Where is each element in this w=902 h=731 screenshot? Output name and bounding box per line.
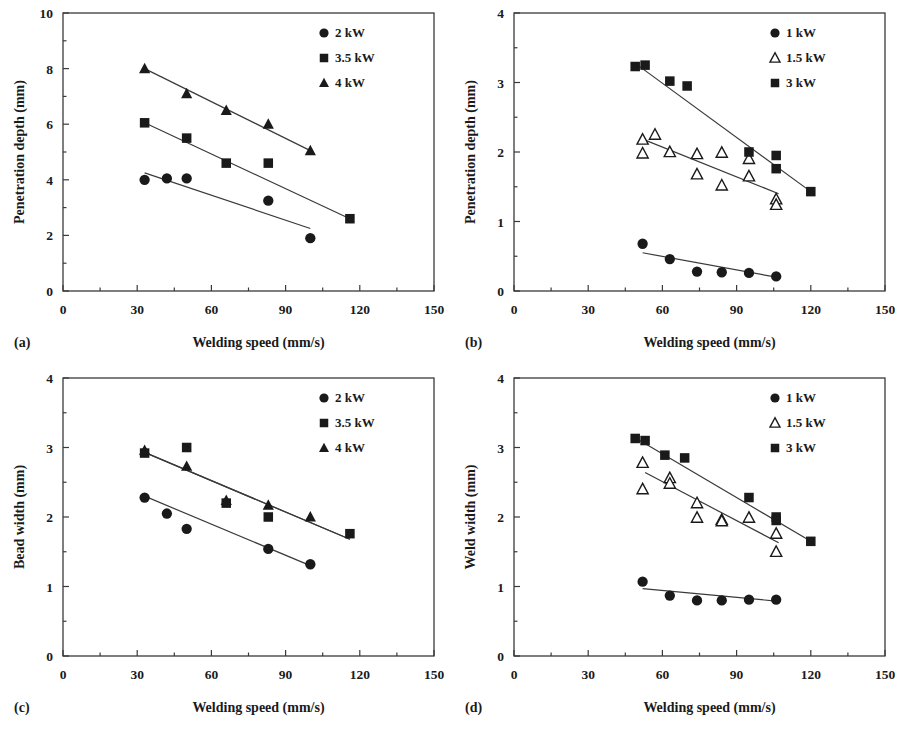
data-point-filled-circle xyxy=(305,559,315,569)
data-point-filled-square xyxy=(182,443,192,453)
y-tick-label: 4 xyxy=(46,371,53,386)
data-point-filled-circle xyxy=(771,271,781,281)
data-point-open-triangle xyxy=(716,147,727,157)
data-point-filled-square xyxy=(744,147,754,157)
x-tick-label: 0 xyxy=(60,302,67,317)
legend-label: 3 kW xyxy=(786,75,816,90)
data-point-filled-square xyxy=(264,512,274,522)
y-tick-label: 6 xyxy=(46,117,53,132)
legend-marker-filled-circle xyxy=(319,393,328,402)
data-point-open-triangle xyxy=(637,483,648,493)
y-tick-label: 0 xyxy=(497,284,504,299)
data-point-filled-square xyxy=(771,151,781,161)
data-point-open-triangle xyxy=(649,129,660,139)
legend-marker-filled-triangle xyxy=(319,443,329,452)
x-tick-label: 0 xyxy=(511,302,518,317)
data-point-filled-square xyxy=(806,187,816,197)
panel-a: 030609012015002468102 kW3.5 kW4 kWWeldin… xyxy=(0,0,451,365)
y-tick-label: 1 xyxy=(497,580,504,595)
data-point-filled-circle xyxy=(139,175,149,185)
data-point-filled-circle xyxy=(637,239,647,249)
legend-label: 4 kW xyxy=(335,440,365,455)
data-point-filled-circle xyxy=(263,544,273,554)
data-point-filled-square xyxy=(345,529,355,539)
figure-four-panel-scatter: 030609012015002468102 kW3.5 kW4 kWWeldin… xyxy=(0,0,902,731)
data-point-open-triangle xyxy=(691,148,702,158)
y-tick-label: 4 xyxy=(46,173,53,188)
y-tick-label: 0 xyxy=(46,284,53,299)
y-tick-label: 3 xyxy=(497,76,504,91)
y-tick-label: 0 xyxy=(497,649,504,664)
y-tick-label: 2 xyxy=(497,510,504,525)
legend-label: 2 kW xyxy=(335,390,365,405)
y-tick-label: 2 xyxy=(497,145,504,160)
x-axis-title: Welding speed (mm/s) xyxy=(192,700,325,716)
x-tick-label: 30 xyxy=(581,302,595,317)
data-point-filled-circle xyxy=(637,576,647,586)
panel-c: 0306090120150012342 kW3.5 kW4 kWWelding … xyxy=(0,365,451,730)
y-tick-label: 1 xyxy=(46,580,53,595)
x-axis-title: Welding speed (mm/s) xyxy=(643,335,776,351)
data-point-open-triangle xyxy=(637,134,648,144)
legend-marker-filled-square xyxy=(771,79,780,88)
data-point-filled-square xyxy=(140,118,150,128)
y-axis-title: Weld width (mm) xyxy=(463,464,479,569)
legend-label: 1.5 kW xyxy=(786,415,826,430)
legend-label: 4 kW xyxy=(335,75,365,90)
x-tick-label: 90 xyxy=(730,302,744,317)
x-tick-label: 60 xyxy=(656,667,670,682)
data-point-filled-square xyxy=(630,434,640,444)
data-point-filled-square xyxy=(744,493,754,503)
y-tick-label: 3 xyxy=(497,441,504,456)
data-point-filled-circle xyxy=(665,254,675,264)
x-tick-label: 0 xyxy=(60,667,67,682)
plot-area: 0306090120150012341 kW1.5 kW3 kWWelding … xyxy=(451,0,902,365)
data-point-filled-circle xyxy=(692,595,702,605)
data-point-filled-square xyxy=(771,516,781,526)
y-tick-label: 1 xyxy=(497,215,504,230)
trend-line xyxy=(640,138,779,194)
panel-letter: (d) xyxy=(465,700,482,716)
y-tick-label: 2 xyxy=(46,510,53,525)
legend-marker-open-triangle xyxy=(770,53,780,62)
data-point-filled-circle xyxy=(162,508,172,518)
legend-marker-filled-circle xyxy=(770,28,779,37)
data-point-open-triangle xyxy=(743,170,754,180)
legend-marker-filled-square xyxy=(320,419,329,428)
x-tick-label: 60 xyxy=(205,302,219,317)
x-tick-label: 30 xyxy=(581,667,595,682)
x-tick-label: 150 xyxy=(424,302,445,317)
x-tick-label: 120 xyxy=(801,302,822,317)
y-axis-title: Penetration depth (mm) xyxy=(12,80,28,224)
axes-frame xyxy=(63,13,434,291)
y-tick-label: 4 xyxy=(497,6,504,21)
data-point-filled-square xyxy=(771,164,781,174)
data-point-filled-square xyxy=(182,133,192,143)
legend-label: 3 kW xyxy=(786,440,816,455)
legend-label: 3.5 kW xyxy=(335,50,375,65)
data-point-filled-triangle xyxy=(263,499,274,509)
trend-line xyxy=(643,253,777,277)
panel-b: 0306090120150012341 kW1.5 kW3 kWWelding … xyxy=(451,0,902,365)
data-point-open-triangle xyxy=(691,512,702,522)
data-point-filled-circle xyxy=(162,173,172,183)
legend-label: 2 kW xyxy=(335,25,365,40)
plot-area: 030609012015002468102 kW3.5 kW4 kWWeldin… xyxy=(0,0,451,365)
x-tick-label: 90 xyxy=(279,667,293,682)
data-point-filled-circle xyxy=(263,195,273,205)
legend-label: 1.5 kW xyxy=(786,50,826,65)
y-tick-label: 4 xyxy=(497,371,504,386)
x-tick-label: 150 xyxy=(875,302,896,317)
panel-letter: (c) xyxy=(14,700,30,716)
data-point-filled-triangle xyxy=(181,460,192,470)
trend-line xyxy=(145,123,350,219)
x-tick-label: 90 xyxy=(279,302,293,317)
trend-line xyxy=(638,65,811,191)
y-tick-label: 3 xyxy=(46,441,53,456)
data-point-filled-square xyxy=(680,453,690,463)
data-point-open-triangle xyxy=(637,457,648,467)
data-point-filled-circle xyxy=(139,492,149,502)
panel-d: 0306090120150012341 kW1.5 kW3 kWWelding … xyxy=(451,365,902,730)
x-tick-label: 120 xyxy=(350,667,371,682)
panel-letter: (a) xyxy=(14,335,31,351)
